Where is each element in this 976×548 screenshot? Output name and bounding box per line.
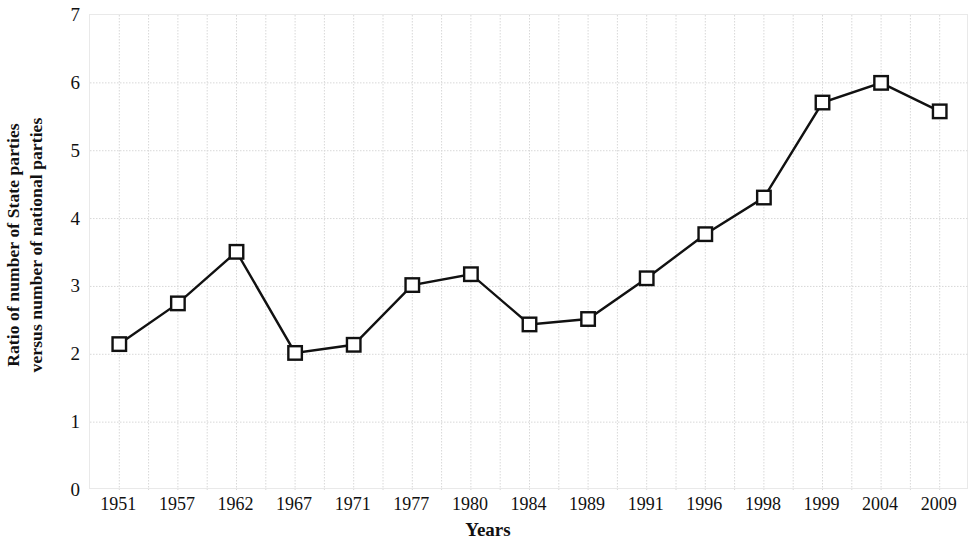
data-point-marker — [347, 338, 361, 352]
data-point-marker — [171, 297, 185, 311]
y-axis-tick-label: 2 — [50, 344, 80, 363]
data-point-marker — [757, 191, 771, 205]
y-axis-tick-label: 6 — [50, 72, 80, 91]
x-axis-tick-label: 2009 — [899, 492, 976, 516]
y-axis-tick-labels: 01234567 — [50, 0, 80, 548]
data-point-marker — [288, 346, 302, 360]
plot-area — [89, 14, 968, 489]
y-axis-tick-label: 1 — [50, 412, 80, 431]
data-point-marker — [640, 272, 654, 286]
data-point-marker — [699, 227, 713, 241]
data-point-marker — [816, 96, 830, 110]
y-axis-title-line-1: Ratio of number of State parties — [2, 117, 25, 372]
data-point-marker — [874, 76, 888, 90]
data-point-marker — [523, 318, 537, 332]
y-axis-tick-label: 4 — [50, 208, 80, 227]
x-axis-title: Years — [0, 518, 976, 542]
y-axis-tick-label: 5 — [50, 140, 80, 159]
y-axis-title: Ratio of number of State parties versus … — [0, 0, 50, 489]
data-point-marker — [464, 267, 478, 281]
y-axis-tick-label: 7 — [50, 5, 80, 24]
data-point-marker — [933, 105, 947, 119]
data-point-markers — [113, 76, 947, 360]
data-point-marker — [230, 245, 244, 259]
line-chart-figure: Ratio of number of State parties versus … — [0, 0, 976, 548]
data-point-marker — [113, 337, 127, 351]
y-axis-title-line-2: versus number of national parties — [25, 117, 48, 372]
series-canvas — [90, 15, 969, 490]
y-axis-tick-label: 3 — [50, 276, 80, 295]
data-point-marker — [406, 278, 420, 292]
data-point-marker — [581, 312, 595, 326]
